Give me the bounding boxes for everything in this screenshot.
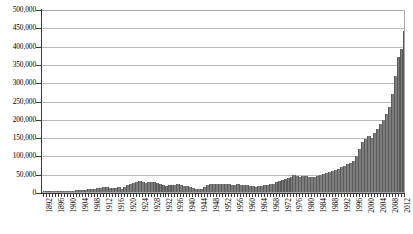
x-axis-labels: 1892189619001904190819121916192019241928… [42,198,405,234]
x-tick-mark [356,194,357,197]
x-tick-mark [287,194,288,197]
x-tick-mark [267,194,268,197]
x-tick-mark [130,194,131,197]
x-tick-label: 1916 [118,198,126,213]
x-tick-mark [115,194,116,197]
y-tick-label: 50,000 [16,171,36,178]
x-tick-mark [365,194,366,197]
x-tick-mark [290,194,291,197]
x-tick-mark [79,194,80,197]
x-tick-mark [404,194,405,197]
x-tick-mark [210,194,211,197]
x-tick-mark [204,194,205,197]
x-tick-mark [258,194,259,197]
x-tick-mark [237,194,238,197]
x-tick-label: 2008 [392,198,400,213]
x-tick-mark [46,194,47,197]
x-tick-mark [183,194,184,197]
x-tick-mark [276,194,277,197]
x-tick-mark [133,194,134,197]
y-tick-label: 250,000 [13,98,36,105]
x-tick-mark [299,194,300,197]
x-tick-mark [308,194,309,197]
x-tick-mark [157,194,158,197]
y-tick-mark [36,10,41,11]
x-tick-mark [222,194,223,197]
x-tick-label: 1948 [213,198,221,213]
y-tick-mark [36,47,41,48]
x-tick-mark [392,194,393,197]
x-tick-label: 1928 [154,198,162,213]
x-tick-mark [293,194,294,197]
x-tick-mark [320,194,321,197]
x-tick-label: 1956 [237,198,245,213]
x-tick-mark [279,194,280,197]
x-tick-mark [249,194,250,197]
x-tick-mark [61,194,62,197]
x-tick-mark [347,194,348,197]
x-tick-label: 1960 [249,198,257,213]
x-tick-mark [73,194,74,197]
x-tick-mark [171,194,172,197]
x-tick-mark [201,194,202,197]
x-tick-label: 1924 [142,198,150,213]
x-tick-mark [219,194,220,197]
x-tick-mark [127,194,128,197]
x-tick-label: 2000 [368,198,376,213]
x-tick-mark [246,194,247,197]
x-tick-mark [112,194,113,197]
y-tick-label: 200,000 [13,116,36,123]
bar [403,31,405,192]
x-tick-mark [282,194,283,197]
x-tick-mark [103,194,104,197]
x-tick-mark [198,194,199,197]
x-tick-label: 1988 [332,198,340,213]
x-tick-mark [136,194,137,197]
x-tick-mark [225,194,226,197]
x-tick-label: 1940 [189,198,197,213]
x-tick-label: 1980 [308,198,316,213]
x-tick-mark [302,194,303,197]
x-tick-mark [82,194,83,197]
y-tick-label: 500,000 [13,6,36,13]
x-tick-mark [395,194,396,197]
x-tick-mark [234,194,235,197]
x-tick-mark [344,194,345,197]
x-tick-mark [368,194,369,197]
x-tick-mark [76,194,77,197]
x-tick-mark [240,194,241,197]
x-tick-mark [145,194,146,197]
x-tick-label: 1904 [82,198,90,213]
x-tick-mark [335,194,336,197]
y-tick-label: 150,000 [13,134,36,141]
x-tick-mark [67,194,68,197]
x-tick-mark [380,194,381,197]
x-tick-mark [49,194,50,197]
x-tick-mark [180,194,181,197]
x-tick-mark [273,194,274,197]
y-tick-label: 350,000 [13,61,36,68]
x-tick-mark [192,194,193,197]
x-tick-mark [296,194,297,197]
x-tick-label: 1932 [166,198,174,213]
x-tick-mark [109,194,110,197]
y-tick-mark [36,138,41,139]
x-tick-label: 1964 [261,198,269,213]
x-tick-mark [213,194,214,197]
x-tick-mark [148,194,149,197]
x-tick-mark [252,194,253,197]
x-tick-mark [195,194,196,197]
x-tick-mark [362,194,363,197]
x-tick-mark [389,194,390,197]
x-tick-mark [401,194,402,197]
x-tick-label: 1952 [225,198,233,213]
x-tick-mark [186,194,187,197]
x-tick-mark [151,194,152,197]
x-tick-label: 1892 [46,198,54,213]
x-tick-mark [228,194,229,197]
x-tick-mark [64,194,65,197]
y-tick-mark [36,120,41,121]
x-tick-label: 2012 [404,198,412,213]
x-tick-mark [160,194,161,197]
x-tick-mark [311,194,312,197]
